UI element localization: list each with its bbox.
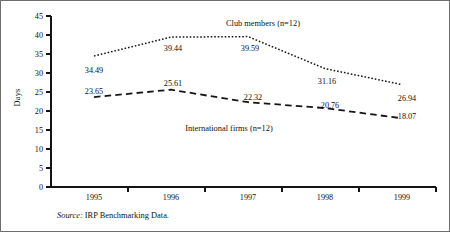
x-tick-label: 1996 bbox=[163, 193, 179, 202]
y-axis-title: Days bbox=[13, 88, 22, 106]
data-label: 31.16 bbox=[318, 77, 336, 86]
y-tick-label: 40 bbox=[35, 31, 43, 40]
data-label: 23.65 bbox=[85, 87, 103, 96]
y-tick-label: 0 bbox=[39, 183, 43, 192]
source-prefix: Source: bbox=[57, 211, 83, 220]
data-label: 34.49 bbox=[85, 66, 103, 75]
data-label: 26.94 bbox=[398, 94, 416, 103]
chart-canvas: 0 5 10 15 20 25 30 35 40 45 199 bbox=[1, 1, 450, 232]
data-label: 39.59 bbox=[241, 44, 259, 53]
y-tick-label: 30 bbox=[35, 69, 43, 78]
data-label: 39.44 bbox=[164, 44, 182, 53]
y-axis-tick-labels: 0 5 10 15 20 25 30 35 40 45 bbox=[35, 12, 43, 192]
y-tick-label: 35 bbox=[35, 50, 43, 59]
data-label: 18.07 bbox=[398, 112, 416, 121]
y-tick-label: 10 bbox=[35, 145, 43, 154]
data-label: 22.32 bbox=[244, 93, 262, 102]
data-label: 20.76 bbox=[321, 101, 339, 110]
series-annotation-international-firms: International firms (n=12) bbox=[185, 124, 273, 133]
x-tick-label: 1997 bbox=[240, 193, 256, 202]
y-tick-label: 25 bbox=[35, 88, 43, 97]
plot-area: 0 5 10 15 20 25 30 35 40 45 199 bbox=[1, 1, 450, 232]
y-tick-label: 45 bbox=[35, 12, 43, 21]
y-tick-label: 5 bbox=[39, 164, 43, 173]
x-tick-label: 1998 bbox=[317, 193, 333, 202]
source-text: IRP Benchmarking Data. bbox=[85, 211, 169, 220]
figure-container: 0 5 10 15 20 25 30 35 40 45 199 bbox=[0, 0, 450, 232]
source-note: Source: IRP Benchmarking Data. bbox=[57, 211, 169, 220]
series-labels-international-firms: 23.65 25.61 22.32 20.76 18.07 bbox=[85, 79, 416, 121]
data-label: 25.61 bbox=[164, 79, 182, 88]
x-tick-label: 1999 bbox=[394, 193, 410, 202]
y-tick-label: 15 bbox=[35, 126, 43, 135]
x-axis-tick-labels: 1995 1996 1997 1998 1999 bbox=[86, 193, 410, 202]
x-tick-label: 1995 bbox=[86, 193, 102, 202]
y-tick-label: 20 bbox=[35, 107, 43, 116]
series-annotation-club-members: Club members (n=12) bbox=[226, 19, 300, 28]
